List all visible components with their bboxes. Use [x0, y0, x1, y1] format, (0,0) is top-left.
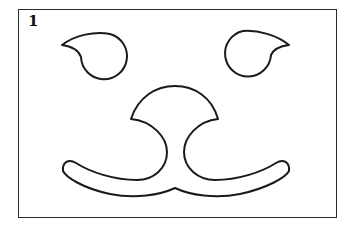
face-drawing: [0, 0, 354, 227]
right-eye-shape: [225, 31, 289, 77]
left-eye-shape: [62, 33, 127, 79]
nose-mouth-shape: [63, 86, 289, 196]
